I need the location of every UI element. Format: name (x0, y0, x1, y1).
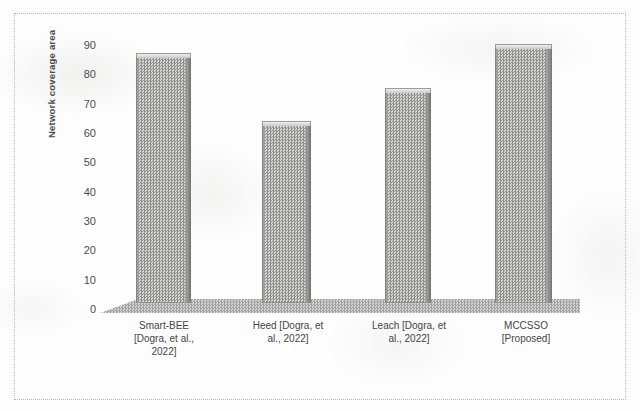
x-label-line: [Proposed] (468, 332, 584, 345)
bar-leach (385, 88, 431, 303)
x-label-mccsso: MCCSSO [Proposed] (468, 319, 584, 345)
bar-chart-plot-area: Network coverage area 90 80 70 60 50 40 … (0, 0, 640, 411)
y-tick-label-10: 10 (56, 274, 96, 286)
y-tick-label-30: 30 (56, 215, 96, 227)
y-tick-label-70: 70 (56, 98, 96, 110)
bar-face (136, 53, 191, 303)
bar-side-left (495, 44, 498, 303)
y-tick-label-60: 60 (56, 127, 96, 139)
bar-bevel-top (136, 53, 191, 58)
x-label-line: al., 2022] (348, 332, 470, 345)
x-label-line: Leach [Dogra, et (348, 319, 470, 332)
bar-heed (262, 121, 311, 303)
y-tick-label-0: 0 (56, 303, 96, 315)
bar-bevel-top (262, 121, 311, 126)
bar-face (495, 44, 552, 303)
y-tick-label-40: 40 (56, 186, 96, 198)
x-label-line: Heed [Dogra, et (228, 319, 348, 332)
bar-side-right (425, 88, 431, 303)
bar-side-right (305, 121, 311, 303)
bar-bevel-top (385, 88, 431, 93)
y-tick-label-90: 90 (56, 39, 96, 51)
y-tick-label-50: 50 (56, 156, 96, 168)
bar-smart-bee (136, 53, 191, 303)
x-label-leach: Leach [Dogra, et al., 2022] (348, 319, 470, 345)
x-label-smart-bee: Smart-BEE [Dogra, et al., 2022] (103, 319, 225, 358)
x-label-line: 2022] (103, 345, 225, 358)
x-label-heed: Heed [Dogra, et al., 2022] (228, 319, 348, 345)
bar-bevel-top (495, 44, 552, 49)
x-label-line: Smart-BEE (103, 319, 225, 332)
y-tick-label-80: 80 (56, 68, 96, 80)
x-label-line: [Dogra, et al., (103, 332, 225, 345)
scanned-chart-page: Network coverage area 90 80 70 60 50 40 … (0, 0, 640, 411)
bar-side-right (546, 44, 552, 303)
bar-mccsso (495, 44, 552, 303)
x-label-line: MCCSSO (468, 319, 584, 332)
bar-side-left (262, 121, 265, 303)
bar-side-left (136, 53, 139, 303)
bar-face (262, 121, 311, 303)
y-tick-label-20: 20 (56, 244, 96, 256)
bar-side-left (385, 88, 388, 303)
bar-side-right (185, 53, 191, 303)
x-label-line: al., 2022] (228, 332, 348, 345)
